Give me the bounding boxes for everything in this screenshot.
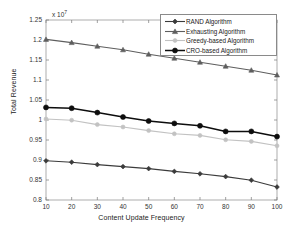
x-tick-label: 90	[241, 203, 261, 210]
x-tick-label: 50	[139, 203, 159, 210]
y-tick-label: 1.05	[16, 96, 42, 103]
x-tick-label: 20	[62, 203, 82, 210]
x-tick-label: 70	[190, 203, 210, 210]
x-tick-label: 100	[267, 203, 283, 210]
x-axis-title: Content Update Frequency	[0, 214, 283, 221]
y-tick-label: 1.25	[16, 16, 42, 23]
legend-item[interactable]: Greedy-based Algorithm	[164, 36, 273, 46]
x-tick-label: 30	[87, 203, 107, 210]
legend-item-label: Exhausting Algorithm	[186, 27, 245, 36]
exponent-power: 7	[64, 9, 67, 15]
series-rand-algorithm	[44, 158, 280, 189]
y-tick-label: 1.2	[16, 36, 42, 43]
y-tick-label: 0.8	[16, 196, 42, 203]
chart-legend[interactable]: RAND AlgorithmExhausting AlgorithmGreedy…	[160, 14, 277, 56]
legend-item[interactable]: RAND Algorithm	[164, 17, 273, 27]
legend-marker-icon	[164, 27, 186, 36]
y-tick-label: 0.85	[16, 176, 42, 183]
legend-item-label: CRO-based Algorithm	[186, 46, 247, 55]
legend-item-label: Greedy-based Algorithm	[186, 36, 254, 45]
exponent-mantissa: x 10	[52, 11, 64, 18]
y-axis-exponent-label: x 107	[52, 9, 67, 18]
legend-item-label: RAND Algorithm	[186, 17, 232, 26]
x-tick-label: 80	[216, 203, 236, 210]
x-tick-label: 10	[36, 203, 56, 210]
figure-canvas: x 107 Total Revenue Content Update Frequ…	[0, 0, 283, 238]
y-tick-label: 0.9	[16, 156, 42, 163]
legend-item[interactable]: CRO-based Algorithm	[164, 46, 273, 56]
legend-marker-icon	[164, 46, 186, 55]
y-tick-label: 1	[16, 116, 42, 123]
x-tick-label: 40	[113, 203, 133, 210]
legend-item[interactable]: Exhausting Algorithm	[164, 27, 273, 37]
y-tick-label: 0.95	[16, 136, 42, 143]
legend-marker-icon	[164, 36, 186, 45]
y-tick-label: 1.15	[16, 56, 42, 63]
data-series-group	[44, 37, 280, 190]
series-cro-based-algorithm	[44, 105, 280, 139]
legend-marker-icon	[164, 17, 186, 26]
x-tick-label: 60	[164, 203, 184, 210]
y-tick-label: 1.1	[16, 76, 42, 83]
